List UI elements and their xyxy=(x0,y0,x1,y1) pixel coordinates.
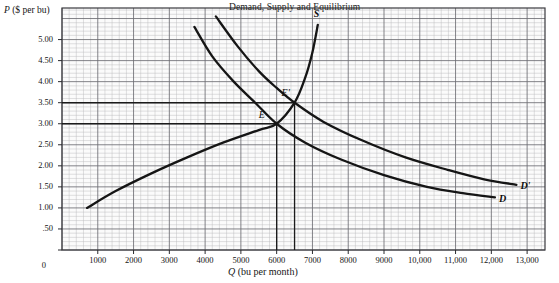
y-tick-label: 1.50 xyxy=(13,181,53,191)
y-tick-label: 1.00 xyxy=(13,202,53,212)
y-tick-label: 3.50 xyxy=(13,97,53,107)
y-tick-label: 4.00 xyxy=(13,76,53,86)
y-tick-label: 0 xyxy=(6,260,46,270)
equilibrium-label-E-prime: E' xyxy=(282,87,290,98)
equilibrium-label-E: E xyxy=(259,109,265,120)
chart-title: Demand, Supply and Equilibrium xyxy=(229,2,360,12)
y-tick-label: 2.50 xyxy=(13,139,53,149)
y-tick-label: 3.00 xyxy=(13,118,53,128)
x-tick-label: 13,000 xyxy=(505,255,549,265)
curve-label-supply: S xyxy=(314,8,320,19)
curve-label-demand: D xyxy=(499,193,506,204)
y-axis-title: P ($ per bu) xyxy=(4,5,50,15)
y-tick-label: 2.00 xyxy=(13,160,53,170)
y-tick-label: .50 xyxy=(13,223,53,233)
y-tick-label: 5.00 xyxy=(13,34,53,44)
plot-background xyxy=(62,8,545,250)
demand-supply-equilibrium-figure: P ($ per bu) Demand, Supply and Equilibr… xyxy=(0,0,559,283)
y-tick-label: 4.50 xyxy=(13,55,53,65)
curve-label-demand-shifted: D' xyxy=(520,180,530,191)
plot-canvas xyxy=(0,0,559,283)
x-axis-title: Q (bu per month) xyxy=(228,266,298,277)
